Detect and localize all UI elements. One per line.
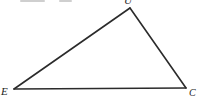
vertex-label-U: U xyxy=(124,0,132,6)
clipped-text-remnant-1 xyxy=(20,0,45,2)
clipped-text-remnant-2 xyxy=(59,0,72,2)
triangle-outline xyxy=(0,0,208,111)
vertex-label-E: E xyxy=(1,86,8,97)
triangle-diagram: UEC xyxy=(0,0,208,111)
vertex-label-C: C xyxy=(189,88,196,98)
triangle-edge-CE xyxy=(14,88,186,89)
triangle-edge-EU xyxy=(14,8,130,89)
triangle-edge-UC xyxy=(130,8,186,88)
